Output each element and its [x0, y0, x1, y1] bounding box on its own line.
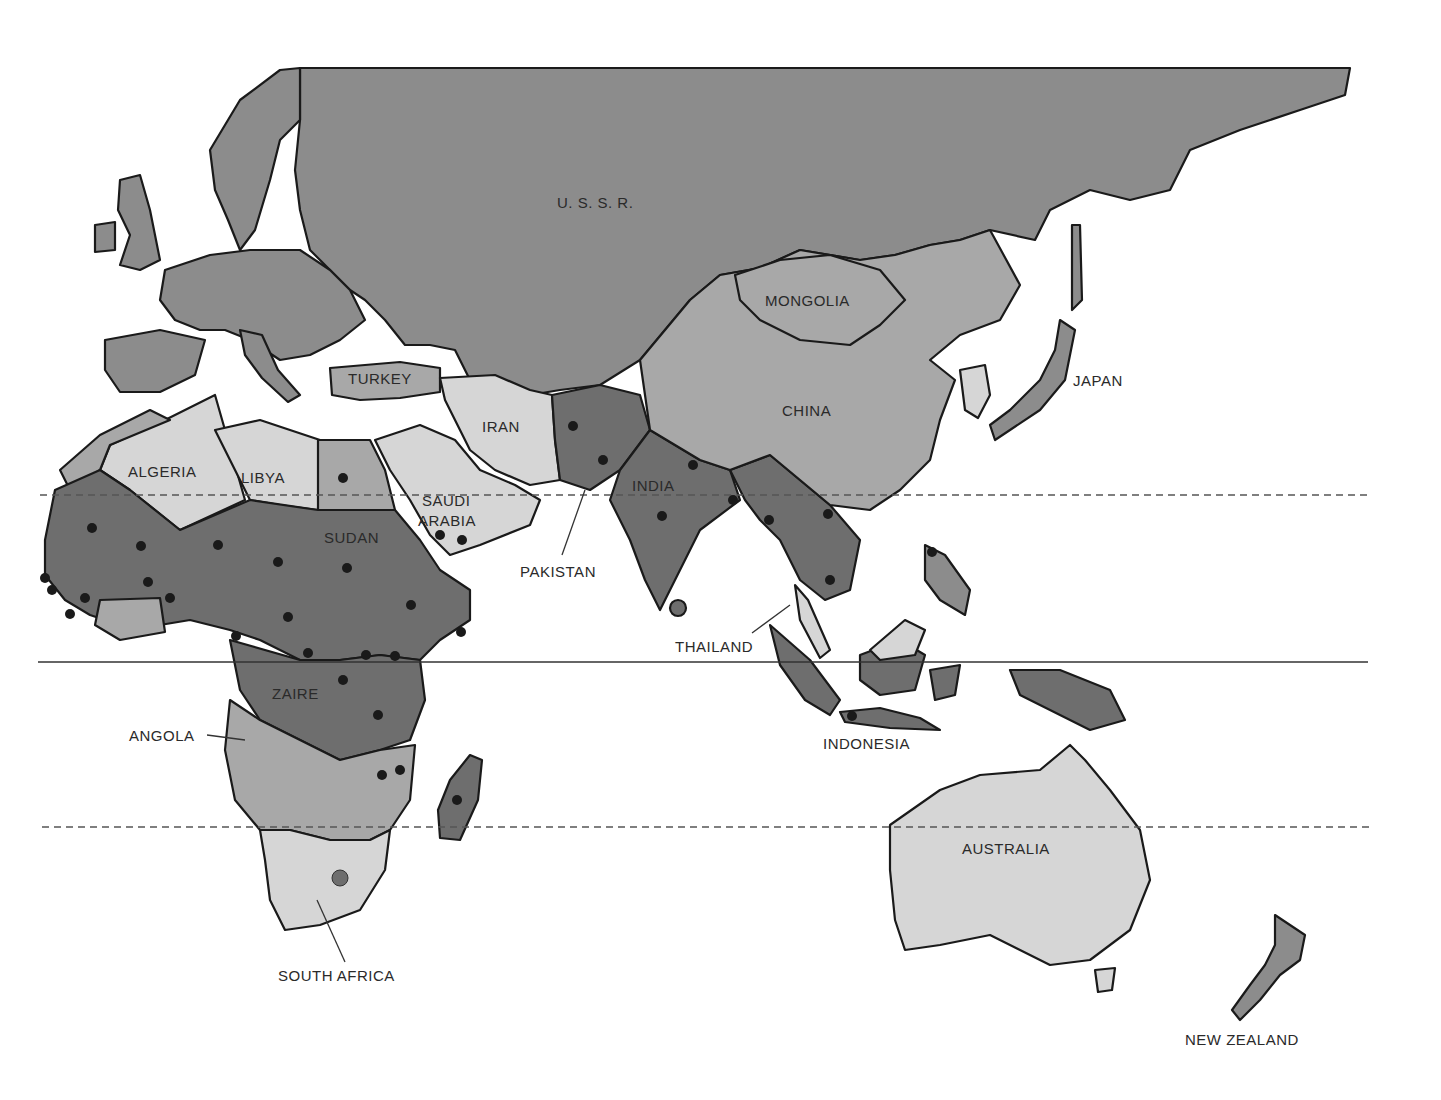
- region-south-africa: [260, 830, 390, 930]
- region-tasmania: [1095, 968, 1115, 992]
- world-map: [0, 0, 1441, 1100]
- region-new-guinea: [1010, 670, 1125, 730]
- label-algeria: ALGERIA: [128, 464, 197, 480]
- label-mongolia: MONGOLIA: [765, 293, 850, 309]
- label-sudan: SUDAN: [324, 530, 379, 546]
- region-sri-lanka: [670, 600, 686, 616]
- label-pakistan: PAKISTAN: [520, 564, 596, 580]
- label-new-zealand: NEW ZEALAND: [1185, 1032, 1299, 1048]
- label-japan: JAPAN: [1073, 373, 1123, 389]
- label-ussr: U. S. S. R.: [557, 195, 633, 211]
- region-korea: [960, 365, 990, 418]
- label-libya: LIBYA: [241, 470, 285, 486]
- region-new-zealand: [1232, 915, 1305, 1020]
- label-saudi-arabia-line2: ARABIA: [418, 513, 476, 529]
- label-indonesia: INDONESIA: [823, 736, 910, 752]
- region-sumatra: [770, 625, 840, 715]
- label-saudi-arabia-line1: SAUDI: [422, 493, 470, 509]
- region-japan: [990, 320, 1075, 440]
- label-iran: IRAN: [482, 419, 520, 435]
- label-angola: ANGOLA: [129, 728, 195, 744]
- label-thailand: THAILAND: [675, 639, 753, 655]
- region-sulawesi: [930, 665, 960, 700]
- region-sakhalin: [1072, 225, 1082, 310]
- region-ireland: [95, 222, 115, 252]
- pakistan-leader: [562, 490, 585, 555]
- region-scandinavia: [210, 68, 300, 250]
- region-guinea-coast: [95, 598, 165, 640]
- region-britain: [118, 175, 160, 270]
- label-south-africa: SOUTH AFRICA: [278, 968, 395, 984]
- region-iberia: [105, 330, 205, 392]
- label-australia: AUSTRALIA: [962, 841, 1050, 857]
- label-india: INDIA: [632, 478, 675, 494]
- label-turkey: TURKEY: [348, 371, 412, 387]
- label-china: CHINA: [782, 403, 831, 419]
- lesotho-marker: [332, 870, 348, 886]
- label-zaire: ZAIRE: [272, 686, 319, 702]
